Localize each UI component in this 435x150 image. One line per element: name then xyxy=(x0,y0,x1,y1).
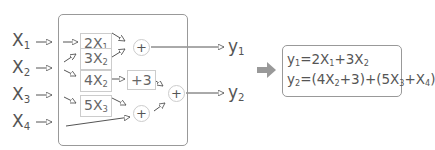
input-x3: X3 xyxy=(12,86,30,105)
term-4x2: 4X2 xyxy=(80,70,112,92)
sum-node-y1: + xyxy=(133,39,150,56)
input-x1: X1 xyxy=(12,32,30,51)
input-x4: X4 xyxy=(12,113,30,132)
model-box xyxy=(58,14,188,146)
right-arrow-icon xyxy=(257,62,277,78)
constant-plus3: +3 xyxy=(127,70,156,90)
sum-node-5x3-x4: + xyxy=(133,105,150,122)
term-3x2: 3X2 xyxy=(80,48,112,70)
sum-node-y2: + xyxy=(168,85,185,102)
input-x2: X2 xyxy=(12,59,30,78)
equation-y2: y2=(4X2+3)+(5X3+X4) xyxy=(287,73,435,87)
output-y1: y1 xyxy=(228,38,245,57)
output-y2: y2 xyxy=(228,84,245,103)
term-5x3: 5X3 xyxy=(80,95,112,117)
equation-y1: y1=2X1+3X2 xyxy=(287,53,369,67)
